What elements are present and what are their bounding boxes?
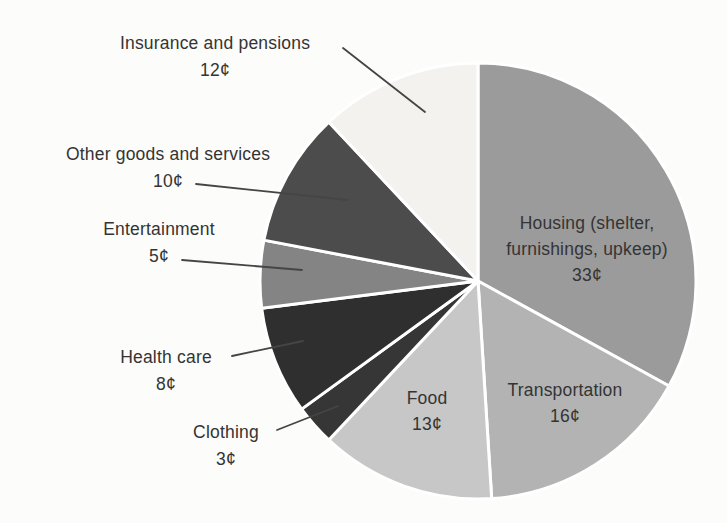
pie-chart-figure: Housing (shelter,furnishings, upkeep)33¢… xyxy=(0,0,727,523)
pie-graphic xyxy=(0,0,727,523)
